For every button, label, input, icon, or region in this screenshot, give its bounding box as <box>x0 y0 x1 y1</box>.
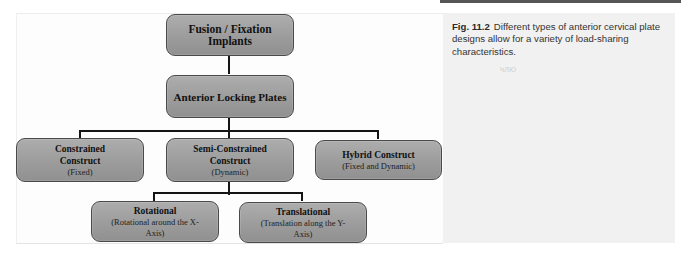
node-fusion-fixation-implants: Fusion / Fixation Implants <box>166 14 294 56</box>
node-semi-constrained-construct: Semi-Constrained Construct (Dynamic) <box>166 138 294 182</box>
connector-to-hybrid <box>377 130 379 139</box>
node-hybrid-construct: Hybrid Construct (Fixed and Dynamic) <box>315 140 442 180</box>
node-translational: Translational (Translation along the Y-A… <box>239 202 367 243</box>
node-subtitle: (Translation along the Y-Axis) <box>246 218 360 239</box>
connector-to-translational <box>301 192 303 201</box>
figure-label: Fig. 11.2 <box>452 21 490 32</box>
node-title: Constrained Construct <box>23 143 137 167</box>
node-title: Anterior Locking Plates <box>174 91 287 103</box>
node-title: Rotational <box>134 205 177 217</box>
header-rule <box>440 0 681 3</box>
figure-caption: Fig. 11.2Different types of anterior cer… <box>452 21 674 58</box>
node-title: Fusion / Fixation Implants <box>173 23 287 47</box>
node-subtitle: (Rotational around the X-Axis) <box>98 217 212 238</box>
connector-level2-horizontal <box>79 130 379 132</box>
faint-stamp: ϞЛЮ <box>500 66 516 73</box>
node-subtitle: (Dynamic) <box>212 167 249 178</box>
node-title: Translational <box>276 206 330 218</box>
connector-level3-horizontal <box>153 192 303 194</box>
connector-root-to-plates <box>228 56 230 74</box>
node-subtitle: (Fixed) <box>67 167 92 178</box>
node-subtitle: (Fixed and Dynamic) <box>342 161 415 172</box>
figure-bottom-rule <box>16 243 443 244</box>
node-constrained-construct: Constrained Construct (Fixed) <box>16 138 144 182</box>
node-title: Semi-Constrained Construct <box>173 143 287 167</box>
connector-plates-down <box>228 118 230 138</box>
node-anterior-locking-plates: Anterior Locking Plates <box>166 75 294 118</box>
connector-to-rotational <box>153 192 155 201</box>
node-title: Hybrid Construct <box>342 149 415 161</box>
node-rotational: Rotational (Rotational around the X-Axis… <box>91 201 219 242</box>
